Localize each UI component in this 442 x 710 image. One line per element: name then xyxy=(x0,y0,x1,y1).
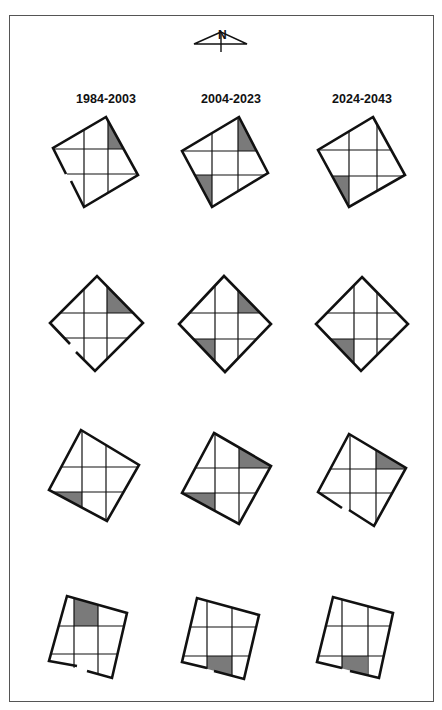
diagram-r4c2 xyxy=(170,590,270,690)
diagram-r3c3 xyxy=(300,425,415,530)
diagram-r2c1 xyxy=(40,270,150,380)
diagram-r1c2 xyxy=(170,110,285,215)
diagram-r1c3 xyxy=(300,110,415,215)
diagram-r3c1 xyxy=(40,425,150,530)
diagram-r2c3 xyxy=(300,270,415,380)
diagram-r1c1 xyxy=(40,110,150,215)
diagram-r2c2 xyxy=(170,270,285,380)
diagram-r3c2 xyxy=(170,425,285,530)
diagram-r4c1 xyxy=(40,590,140,685)
orientation-diagrams xyxy=(0,0,442,710)
diagram-r4c3 xyxy=(300,590,405,690)
